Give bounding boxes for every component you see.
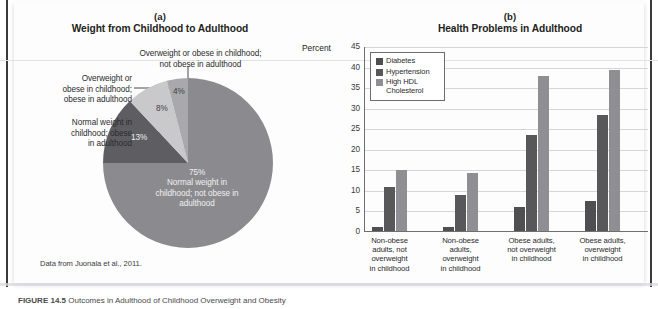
pie-slice-label-75: Normal weight in childhood; not obese in… — [138, 178, 256, 209]
bar-high-hdl-cholesterol — [467, 173, 478, 232]
bar-hypertension — [455, 195, 466, 232]
y-tick-label-0: 0 — [340, 227, 360, 236]
x-category-label: Obese adults, not overweight in childhoo… — [496, 236, 568, 264]
bar-hypertension — [526, 135, 537, 232]
y-tick-label-45: 45 — [340, 42, 360, 51]
y-tick-label-15: 15 — [340, 165, 360, 174]
y-tick-label-25: 25 — [340, 124, 360, 133]
pie-slice-value-13: 13% — [131, 133, 147, 142]
x-axis-line — [364, 231, 648, 232]
bar-high-hdl-cholesterol — [538, 76, 549, 232]
x-category-label: Non-obese adults, overweight in childhoo… — [425, 236, 497, 273]
y-tick-label-40: 40 — [340, 63, 360, 72]
legend-item: Diabetes — [376, 57, 438, 66]
pie-chart-panel: Overweight or obese in childhood; not ob… — [0, 0, 300, 285]
legend-item: Hypertension — [376, 68, 438, 77]
pie-slice-value-75-block: 75% Normal weight in childhood; not obes… — [138, 168, 256, 210]
bar-diabetes — [514, 207, 525, 232]
legend-swatch-icon — [376, 69, 383, 76]
bar-hypertension — [597, 115, 608, 232]
y-tick-label-30: 30 — [340, 104, 360, 113]
y-axis-line — [364, 47, 365, 232]
bar-group — [585, 47, 620, 232]
x-category-label: Non-obese adults, not overweight in chil… — [354, 236, 426, 273]
y-axis-title: Percent — [302, 43, 331, 53]
legend-label: Diabetes — [386, 57, 415, 66]
legend-label: Hypertension — [386, 68, 430, 77]
x-category-label: Obese adults, overweight in childhood — [567, 236, 639, 264]
chart-legend: DiabetesHypertensionHigh HDL Cholesterol — [370, 52, 445, 101]
y-tick-label-35: 35 — [340, 83, 360, 92]
y-tick-label-10: 10 — [340, 186, 360, 195]
bar-high-hdl-cholesterol — [396, 170, 407, 232]
bar-chart-panel: Percent 051015202530354045 Non-obese adu… — [300, 0, 658, 285]
bar-group — [514, 47, 549, 232]
pie-label-overweight-not-obese: Overweight or obese in childhood; not ob… — [108, 49, 293, 70]
figure-caption-text: Outcomes in Adulthood of Childhood Overw… — [66, 296, 286, 305]
bar-hypertension — [384, 187, 395, 232]
pie-slice-value-8: 8% — [156, 104, 168, 113]
legend-item: High HDL Cholesterol — [376, 78, 438, 95]
figure-container: (a) Weight from Childhood to Adulthood O… — [0, 0, 658, 309]
bar-high-hdl-cholesterol — [609, 70, 620, 232]
legend-swatch-icon — [376, 58, 383, 65]
data-source-note: Data from Juonala et al., 2011. — [40, 259, 142, 268]
y-tick-label-5: 5 — [340, 206, 360, 215]
bar-diabetes — [585, 201, 596, 232]
bar-group — [443, 47, 478, 232]
figure-caption: FIGURE 14.5 Outcomes in Adulthood of Chi… — [18, 296, 648, 305]
pie-slice-value-4: 4% — [173, 87, 185, 96]
pie-slice-value-75: 75% — [138, 168, 256, 178]
figure-caption-number: FIGURE 14.5 — [18, 296, 66, 305]
pie-label-overweight-obese: Overweight or obese in childhood; obese … — [28, 74, 132, 106]
y-tick-label-20: 20 — [340, 145, 360, 154]
pie-label-normal-obese: Normal weight in childhood; obese in adu… — [26, 118, 132, 150]
legend-label: High HDL Cholesterol — [386, 78, 423, 95]
legend-swatch-icon — [376, 79, 383, 86]
